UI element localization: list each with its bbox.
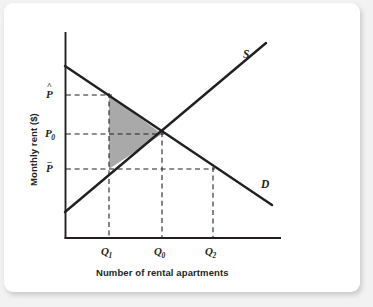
y-tick-label-p0-subscript: 0 bbox=[51, 133, 55, 142]
hat-accent-mark: ^ bbox=[46, 82, 53, 91]
x-tick-label-q1-subscript: 1 bbox=[108, 251, 112, 260]
page-background: Monthly rent ($) Number of rental apartm… bbox=[0, 0, 373, 307]
x-tick-label-q2-subscript: 2 bbox=[212, 251, 216, 260]
y-tick-label-p-bar: – P bbox=[46, 163, 53, 174]
supply-demand-chart: Monthly rent ($) Number of rental apartm… bbox=[0, 0, 373, 307]
x-tick-label-q2: Q2 bbox=[205, 246, 217, 257]
x-axis-title: Number of rental apartments bbox=[96, 268, 229, 278]
x-tick-label-q1: Q1 bbox=[101, 246, 113, 257]
x-tick-label-q0: Q0 bbox=[154, 246, 166, 257]
y-tick-label-p-hat: ^ P bbox=[46, 89, 53, 100]
y-axis-title: Monthly rent ($) bbox=[29, 113, 39, 186]
supply-curve bbox=[65, 43, 266, 212]
x-tick-label-q0-subscript: 0 bbox=[161, 251, 165, 260]
bar-accent-mark: – bbox=[46, 157, 53, 166]
chart-plot-svg bbox=[0, 0, 373, 307]
demand-curve bbox=[65, 66, 272, 205]
supply-curve-label: S bbox=[243, 49, 249, 61]
deadweight-loss-triangle bbox=[109, 95, 162, 169]
demand-curve-label: D bbox=[261, 179, 269, 191]
y-tick-label-p0: P0 bbox=[45, 128, 55, 139]
